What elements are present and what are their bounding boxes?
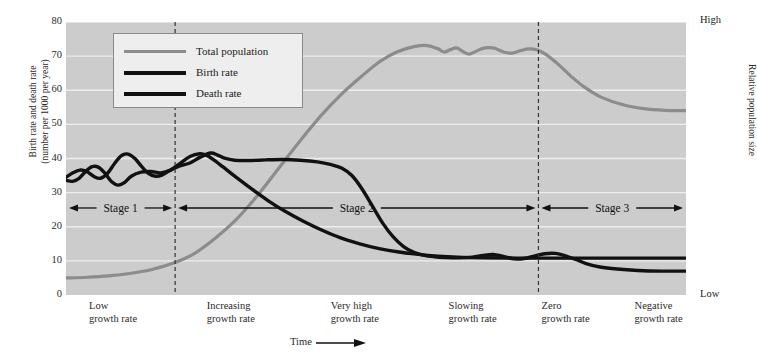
stage-arrow-head-left [69,204,78,211]
y-axis-right-high-label: High [700,14,721,25]
y-tick-label: 40 [36,152,62,163]
y-tick-label: 30 [36,186,62,197]
x-axis-caption: Slowing growth rate [449,300,497,325]
x-axis-caption: Increasing growth rate [207,300,255,325]
stage-band-3: Stage 3 [541,202,683,215]
y-axis-right-title: Relative population size [747,30,757,190]
legend-label: Total population [196,43,268,59]
y-tick-label: 70 [36,49,62,60]
x-axis-caption: Zero growth rate [542,300,590,325]
stage-arrow-head-left [178,204,187,211]
chart-legend: Total populationBirth rateDeath rate [113,33,303,108]
legend-swatch [124,92,186,96]
y-tick-label: 20 [36,220,62,231]
stage-arrow-head-right [163,204,172,211]
y-tick-label: 10 [36,254,62,265]
stage-arrow-head-right [526,204,535,211]
stage-label: Stage 1 [103,202,137,215]
x-axis-title: Time [290,336,368,348]
legend-swatch [124,50,186,53]
y-tick-label: 0 [36,288,62,299]
stage-label: Stage 2 [340,202,374,215]
stage-label: Stage 3 [595,202,629,215]
y-axis-right-low-label: Low [700,288,719,299]
y-tick-label: 60 [36,83,62,94]
legend-label: Death rate [196,85,242,101]
x-axis-caption: Low growth rate [89,300,137,325]
legend-swatch [124,71,186,75]
y-tick-label: 50 [36,117,62,128]
legend-label: Birth rate [196,64,238,80]
stage-arrow-head-left [541,204,550,211]
y-tick-label: 80 [36,15,62,26]
x-axis-caption: Negative growth rate [635,300,683,325]
stage-arrow-head-right [674,204,683,211]
series-line-birth-rate [66,153,686,271]
stage-band-1: Stage 1 [69,202,172,215]
x-axis-title-text: Time [290,336,312,347]
y-axis-ticks: 80706050403020100 [34,0,62,362]
x-axis-caption: Very high growth rate [331,300,379,325]
series-line-death-rate [66,154,686,258]
time-arrow-icon [314,338,368,348]
stage-band-2: Stage 2 [178,202,535,215]
